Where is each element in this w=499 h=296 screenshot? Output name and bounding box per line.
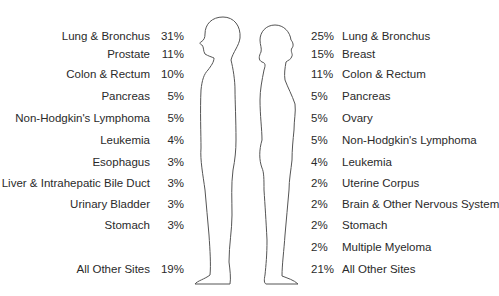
female-site-percent: 2% — [311, 240, 328, 254]
female-site-label: All Other Sites — [342, 262, 416, 276]
female-site-label: Ovary — [342, 111, 373, 125]
female-site-label: Colon & Rectum — [342, 67, 426, 81]
male-site-percent: 11% — [156, 47, 184, 61]
male-site-label: All Other Sites — [77, 262, 151, 276]
female-site-label: Breast — [342, 47, 375, 61]
female-site-percent: 4% — [311, 155, 328, 169]
male-site-percent: 3% — [156, 155, 184, 169]
female-site-label: Leukemia — [342, 155, 392, 169]
female-site-percent: 2% — [311, 218, 328, 232]
female-site-label: Stomach — [342, 218, 387, 232]
male-site-percent: 4% — [156, 133, 184, 147]
female-site-percent: 2% — [311, 176, 328, 190]
female-site-percent: 5% — [311, 111, 328, 125]
male-site-percent: 31% — [156, 29, 184, 43]
female-silhouette-icon — [259, 25, 298, 284]
male-site-label: Urinary Bladder — [70, 197, 150, 211]
male-site-label: Prostate — [107, 47, 150, 61]
male-site-label: Colon & Rectum — [66, 67, 150, 81]
female-site-percent: 5% — [311, 89, 328, 103]
female-site-percent: 5% — [311, 133, 328, 147]
male-site-label: Esophagus — [92, 155, 150, 169]
female-site-percent: 21% — [311, 262, 334, 276]
male-site-percent: 5% — [156, 111, 184, 125]
male-site-percent: 19% — [156, 262, 184, 276]
male-site-label: Non-Hodgkin's Lymphoma — [15, 111, 150, 125]
female-site-label: Non-Hodgkin's Lymphoma — [342, 133, 477, 147]
male-site-label: Lung & Bronchus — [62, 29, 150, 43]
male-site-percent: 3% — [156, 197, 184, 211]
male-silhouette-icon — [195, 17, 240, 284]
female-site-percent: 15% — [311, 47, 334, 61]
male-site-percent: 3% — [156, 218, 184, 232]
female-site-percent: 2% — [311, 197, 328, 211]
female-site-label: Multiple Myeloma — [342, 240, 431, 254]
male-site-percent: 3% — [156, 176, 184, 190]
male-site-label: Pancreas — [101, 89, 150, 103]
female-site-percent: 25% — [311, 29, 334, 43]
female-site-label: Brain & Other Nervous System — [342, 197, 499, 211]
female-site-percent: 11% — [311, 67, 333, 81]
female-site-label: Lung & Bronchus — [342, 29, 430, 43]
male-site-label: Stomach — [105, 218, 150, 232]
male-site-label: Leukemia — [100, 133, 150, 147]
female-site-label: Pancreas — [342, 89, 391, 103]
male-site-percent: 10% — [156, 67, 184, 81]
female-site-label: Uterine Corpus — [342, 176, 419, 190]
male-site-label: Liver & Intrahepatic Bile Duct — [2, 176, 150, 190]
male-site-percent: 5% — [156, 89, 184, 103]
